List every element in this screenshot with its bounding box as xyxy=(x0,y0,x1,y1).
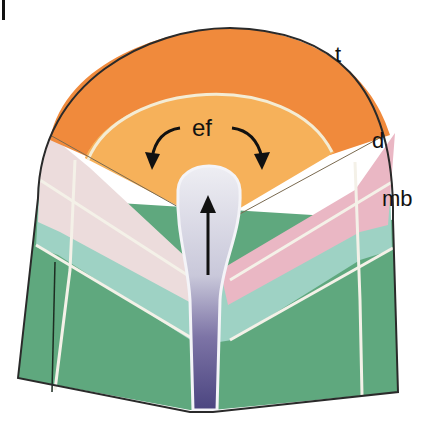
embryo-diagram xyxy=(0,0,430,422)
label-mb: mb xyxy=(382,188,413,210)
label-d: d xyxy=(372,130,384,152)
label-t: t xyxy=(335,44,341,66)
label-ef: ef xyxy=(192,116,212,140)
